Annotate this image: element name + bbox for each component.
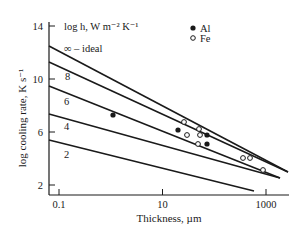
h-line-2 (49, 140, 254, 191)
point-al (175, 127, 180, 132)
x-tick-label: 1000 (256, 199, 277, 210)
x-axis-label: Thickness, µm (137, 212, 202, 224)
point-al (110, 112, 115, 117)
point-fe (198, 133, 203, 138)
h-lines: ∞ – ideal8642 (49, 43, 288, 191)
line-label: 4 (64, 121, 70, 132)
x-tick-label: 0.1 (52, 199, 65, 210)
legend-marker-open-icon (191, 36, 196, 41)
line-label: 6 (64, 96, 69, 107)
y-tick-label: 14 (33, 21, 44, 32)
line-label: ∞ – ideal (64, 43, 102, 54)
line-label: 2 (64, 149, 69, 160)
h-line-ideal (49, 46, 288, 172)
point-fe (248, 156, 253, 161)
point-fe (182, 120, 187, 125)
point-fe (261, 168, 266, 173)
legend-title: log h, W m⁻² K⁻¹ (64, 21, 138, 32)
legend-marker-filled-icon (190, 25, 195, 30)
point-fe (185, 133, 190, 138)
h-line-8 (49, 62, 288, 172)
x-tick-label: 10 (157, 199, 168, 210)
point-fe (197, 127, 202, 132)
h-line-6 (49, 86, 280, 178)
y-tick-label: 2 (38, 180, 43, 191)
labels: log h, W m⁻² K⁻¹ log cooling rate, K s⁻¹… (16, 21, 202, 224)
y-tick-label: 6 (38, 127, 43, 138)
line-label: 8 (65, 71, 70, 82)
point-fe (241, 156, 246, 161)
legend: AlFe (190, 23, 210, 44)
point-al (204, 141, 209, 146)
point-al (204, 132, 209, 137)
y-tick-label: 10 (33, 74, 44, 85)
point-fe (196, 142, 201, 147)
legend-label: Fe (200, 33, 211, 44)
cooling-rate-chart: 2610140.1101000 ∞ – ideal8642 log h, W m… (0, 0, 307, 233)
y-axis-label: log cooling rate, K s⁻¹ (16, 69, 28, 168)
